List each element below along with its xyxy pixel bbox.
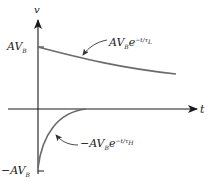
- low-frequency-decay-curve: [38, 47, 176, 74]
- lower-curve-pointer-arrow: [56, 135, 78, 145]
- step-response-diagram: v t AVB −AVB AVBe−t/τL −AVBe−t/τH: [0, 0, 213, 186]
- upper-curve-pointer-arrow: [83, 40, 107, 55]
- t-axis-label: t: [200, 103, 205, 116]
- lower-curve-label: −AVBe−t/τH: [80, 137, 134, 151]
- v-axis-label: v: [34, 4, 40, 15]
- lower-tick-label: −AVB: [1, 164, 31, 178]
- high-frequency-decay-curve: [38, 109, 86, 168]
- upper-curve-label: AVBe−t/τL: [108, 36, 152, 50]
- upper-tick-label: AVB: [6, 40, 27, 54]
